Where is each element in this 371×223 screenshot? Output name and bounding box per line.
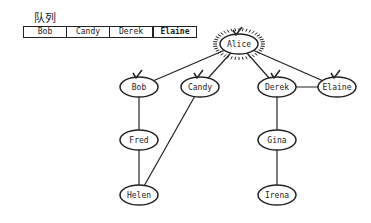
highlight-ray (257, 35, 260, 37)
highlight-ray (252, 55, 254, 57)
highlight-ray (221, 53, 224, 55)
node-label: Elaine (323, 83, 352, 92)
highlight-ray (216, 50, 220, 51)
node-label: Alice (227, 40, 251, 49)
highlight-ray (214, 39, 218, 40)
highlight-ray (255, 53, 258, 55)
highlight-ray (249, 30, 251, 33)
highlight-ray (216, 37, 220, 38)
graph: AliceBobCandyDerekElaineFredGinaHelenIre… (0, 0, 371, 223)
highlight-ray (242, 28, 243, 31)
highlight-ray (214, 48, 218, 49)
highlight-ray (259, 37, 263, 38)
node-label: Gina (267, 136, 286, 145)
highlight-ray (227, 30, 229, 33)
node-label: Fred (129, 136, 148, 145)
highlight-ray (235, 57, 236, 60)
highlight-ray (231, 56, 232, 59)
highlight-ray (221, 33, 224, 35)
highlight-ray (255, 33, 258, 35)
node-label: Candy (188, 83, 212, 92)
node-label: Irena (265, 191, 289, 200)
node-label: Helen (127, 191, 151, 200)
highlight-ray (231, 29, 232, 32)
highlight-ray (252, 31, 254, 33)
highlight-ray (259, 50, 263, 51)
highlight-ray (224, 31, 226, 33)
highlight-ray (224, 55, 226, 57)
highlight-ray (246, 29, 247, 32)
highlight-ray (260, 39, 264, 40)
highlight-ray (246, 56, 247, 59)
highlight-ray (260, 48, 264, 49)
highlight-ray (218, 35, 221, 37)
node-label: Derek (265, 83, 289, 92)
highlight-ray (235, 28, 236, 31)
node-label: Bob (132, 83, 147, 92)
highlight-ray (242, 57, 243, 60)
